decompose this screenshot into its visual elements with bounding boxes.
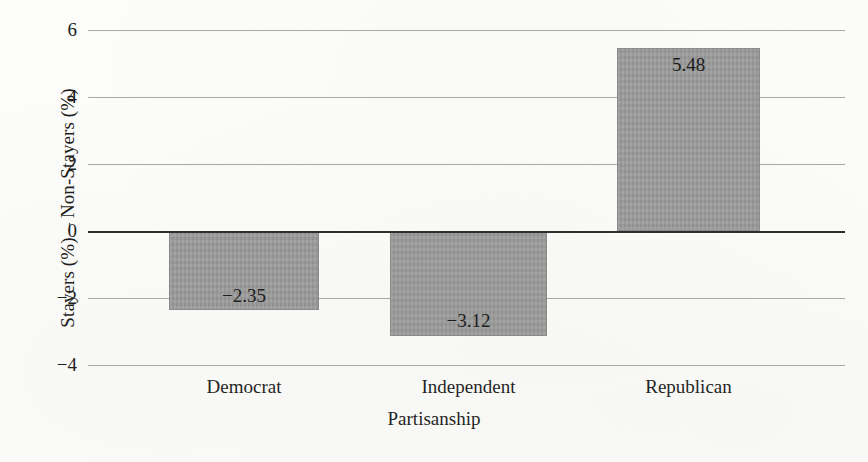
x-tick-label-republican: Republican	[617, 376, 760, 398]
x-tick-label-independent: Independent	[390, 376, 547, 398]
y-tick-label-6: 6	[68, 19, 78, 41]
x-axis-title: Partisanship	[0, 408, 868, 430]
y-tick-label-2: 2	[68, 153, 78, 175]
bar-value-republican: 5.48	[617, 54, 760, 76]
gridline-6: 6	[88, 30, 845, 31]
x-tick-label-democrat: Democrat	[169, 376, 319, 398]
y-tick-label-minus-2: −2	[57, 287, 77, 309]
y-tick-label-4: 4	[68, 86, 78, 108]
gridline-zero: 0	[88, 231, 845, 233]
bar-chart: Stayers (%) – Non-Stayers (%) 6 4 2 0 −2…	[0, 0, 868, 462]
y-tick-label-0: 0	[68, 220, 78, 242]
bar-value-democrat: −2.35	[169, 285, 319, 307]
y-tick-label-minus-4: −4	[57, 354, 77, 376]
gridline-minus-4: −4	[88, 365, 845, 366]
bar-value-independent: −3.12	[390, 310, 547, 332]
plot-area: 6 4 2 0 −2 −4 −2.35 Democrat −3.12 Indep…	[88, 30, 845, 365]
